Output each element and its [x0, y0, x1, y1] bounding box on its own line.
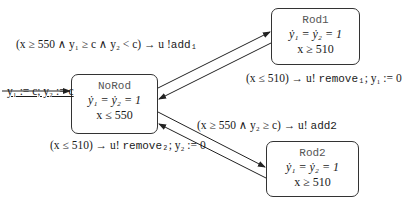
state-name: Rod2 — [267, 146, 358, 160]
state-flow: ẏ₁ = ẏ₂ = 1 — [267, 160, 358, 175]
state-invariant: x ≤ 550 — [72, 108, 157, 123]
state-name: Rod1 — [272, 13, 359, 27]
reset: ; y₂ := 0 — [169, 139, 206, 151]
state-invariant: x ≥ 510 — [272, 42, 359, 57]
state-rod2: Rod2 ẏ₁ = ẏ₂ = 1 x ≥ 510 — [266, 141, 359, 197]
guard: (x ≤ 510) → u! — [50, 139, 122, 151]
initial-label: y₁ := c; y₂ := c — [7, 84, 74, 98]
action: remove₂ — [122, 140, 168, 152]
guard: (x ≥ 550 ∧ y₂ ≥ c) → u! — [197, 119, 311, 131]
label-rod2-to-norod: (x ≤ 510) → u! remove₂; y₂ := 0 — [50, 138, 206, 153]
label-rod1-to-norod: (x ≤ 510) → u! remove₁; y₁ := 0 — [246, 71, 402, 86]
label-norod-to-rod2: (x ≥ 550 ∧ y₂ ≥ c) → u! add2 — [197, 118, 337, 133]
state-name: NoRod — [72, 79, 157, 93]
state-norod: NoRod ẏ₁ = ẏ₂ = 1 x ≤ 550 — [71, 74, 158, 134]
state-flow: ẏ₁ = ẏ₂ = 1 — [72, 93, 157, 108]
reset: ; y₁ := 0 — [365, 72, 402, 84]
guard: (x ≥ 550 ∧ y₁ ≥ c ∧ y₂ < c) → u ! — [16, 38, 171, 50]
state-invariant: x ≥ 510 — [267, 175, 358, 190]
label-norod-to-rod1: (x ≥ 550 ∧ y₁ ≥ c ∧ y₂ < c) → u !add₁ — [16, 37, 197, 52]
state-flow: ẏ₁ = ẏ₂ = 1 — [272, 27, 359, 42]
action: add2 — [311, 120, 337, 132]
state-rod1: Rod1 ẏ₁ = ẏ₂ = 1 x ≥ 510 — [271, 8, 360, 65]
action: remove₁ — [318, 73, 364, 85]
action: add₁ — [171, 39, 197, 51]
guard: (x ≤ 510) → u! — [246, 72, 318, 84]
